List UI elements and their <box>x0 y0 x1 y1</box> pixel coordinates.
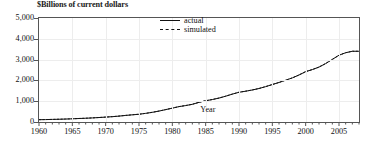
x-tick-label: 1990 <box>222 127 256 136</box>
legend-swatch-dashed-icon <box>160 26 180 33</box>
legend-item-actual: actual <box>160 16 216 25</box>
x-axis-title: Year <box>200 105 215 114</box>
gridline-horizontal <box>39 101 359 102</box>
y-tick-mark <box>34 18 38 19</box>
gridline-vertical <box>139 18 140 122</box>
gridline-horizontal <box>39 39 359 40</box>
y-tick-mark <box>34 60 38 61</box>
y-tick-label: 5,000 <box>0 13 34 22</box>
y-tick-mark <box>34 101 38 102</box>
x-tick-label: 2005 <box>322 127 356 136</box>
legend-swatch-solid-icon <box>160 17 180 24</box>
gridline-horizontal <box>39 80 359 81</box>
x-tick-label: 1960 <box>22 127 56 136</box>
y-tick-label: 4,000 <box>0 34 34 43</box>
gridline-vertical <box>272 18 273 122</box>
y-tick-label: 3,000 <box>0 55 34 64</box>
x-tick-label: 2000 <box>289 127 323 136</box>
x-tick-label: 1970 <box>89 127 123 136</box>
legend-item-simulated: simulated <box>160 25 216 34</box>
series-line-actual <box>39 51 359 119</box>
legend-label-simulated: simulated <box>184 25 216 34</box>
gridline-vertical <box>72 18 73 122</box>
gridline-vertical <box>339 18 340 122</box>
gridline-horizontal <box>39 60 359 61</box>
series-line-simulated <box>39 51 359 119</box>
chart-figure: $Billions of current dollars 01,0002,000… <box>0 0 368 146</box>
x-minor-ticks <box>38 122 360 128</box>
y-tick-label: 0 <box>0 117 34 126</box>
x-tick-label: 1965 <box>55 127 89 136</box>
chart-legend: actual simulated <box>160 16 216 34</box>
gridline-vertical <box>106 18 107 122</box>
gridline-vertical <box>239 18 240 122</box>
y-tick-mark <box>34 39 38 40</box>
y-tick-mark <box>34 80 38 81</box>
x-tick-label: 1995 <box>255 127 289 136</box>
y-tick-label: 1,000 <box>0 96 34 105</box>
x-tick-label: 1980 <box>155 127 189 136</box>
y-axis-title: $Billions of current dollars <box>37 0 128 9</box>
x-tick-label: 1975 <box>122 127 156 136</box>
gridline-vertical <box>306 18 307 122</box>
x-tick-label: 1985 <box>189 127 223 136</box>
y-tick-label: 2,000 <box>0 75 34 84</box>
legend-label-actual: actual <box>184 16 204 25</box>
